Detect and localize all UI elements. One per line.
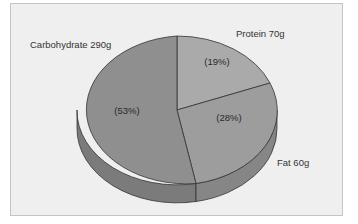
carbohydrate-percent-label: (53%)	[114, 105, 139, 116]
fat-category-label: Fat 60g	[277, 157, 309, 168]
fat-percent-label: (28%)	[216, 112, 241, 123]
pie-chart: (19%) (28%) (53%) Protein 70g Fat 60g Ca…	[0, 0, 358, 224]
protein-percent-label: (19%)	[204, 56, 229, 67]
carbohydrate-category-label: Carbohydrate 290g	[30, 39, 111, 50]
protein-category-label: Protein 70g	[236, 28, 285, 39]
